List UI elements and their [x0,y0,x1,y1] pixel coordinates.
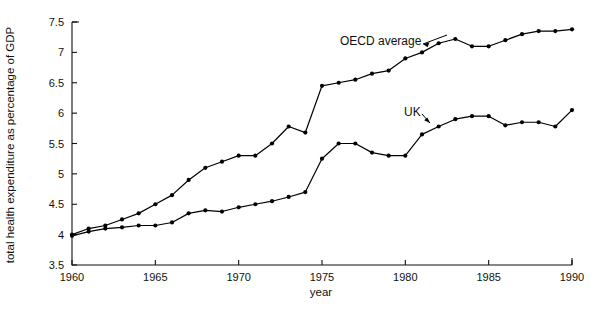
data-point [403,154,407,158]
data-point [387,154,391,158]
data-point [570,108,574,112]
y-tick-label: 5.5 [49,138,64,150]
data-point [120,225,124,229]
x-axis-title: year [310,286,333,298]
data-point [87,229,91,233]
data-point [253,154,257,158]
series-layer [70,27,574,238]
x-tick-label: 1970 [226,271,250,283]
data-point [137,223,141,227]
x-tick-label: 1965 [143,271,167,283]
data-point [553,29,557,33]
data-point [370,151,374,155]
x-tick-label: 1975 [310,271,334,283]
data-point [520,120,524,124]
axis-frame [72,22,572,265]
data-point [137,211,141,215]
data-point [370,72,374,76]
data-point [353,141,357,145]
data-point [303,130,307,134]
data-point [237,154,241,158]
data-point [220,160,224,164]
data-point [303,190,307,194]
series-annotation: UK [404,105,421,119]
data-point [120,217,124,221]
series-line-uk [72,110,572,236]
x-tick-label: 1980 [393,271,417,283]
data-point [387,69,391,73]
x-tick-label: 1990 [560,271,584,283]
data-point [203,166,207,170]
data-point [253,202,257,206]
data-point [187,211,191,215]
y-axis-title: total health expenditure as percentage o… [4,26,16,263]
uk-leader-arrowhead [424,117,430,123]
data-point [553,124,557,128]
data-point [437,41,441,45]
data-point [503,123,507,127]
x-tick-label: 1985 [476,271,500,283]
data-point [203,208,207,212]
y-tick-label: 7 [58,46,64,58]
x-tick-label: 1960 [60,271,84,283]
chart-figure: 3.544.555.566.577.5196019651970197519801… [0,0,596,310]
data-point [270,199,274,203]
data-point [420,50,424,54]
series-annotation: OECD average [340,34,422,48]
line-chart: 3.544.555.566.577.5196019651970197519801… [0,0,596,310]
y-tick-label: 7.5 [49,16,64,28]
data-point [337,141,341,145]
data-point [520,32,524,36]
data-point [187,178,191,182]
data-point [570,27,574,31]
y-tick-label: 4.5 [49,198,64,210]
data-point [470,114,474,118]
data-point [420,132,424,136]
data-point [220,209,224,213]
data-point [170,220,174,224]
data-point [103,226,107,230]
y-tick-label: 4 [58,229,64,241]
data-point [287,195,291,199]
data-point [153,202,157,206]
data-point [70,234,74,238]
data-point [437,124,441,128]
data-point [470,44,474,48]
y-tick-label: 6 [58,107,64,119]
data-point [320,84,324,88]
series-line-oecd-average [72,29,572,234]
y-tick-label: 5 [58,168,64,180]
data-point [537,29,541,33]
axes: 3.544.555.566.577.5196019651970197519801… [49,16,585,283]
data-point [453,117,457,121]
y-tick-label: 6.5 [49,77,64,89]
data-point [153,223,157,227]
y-tick-label: 3.5 [49,259,64,271]
data-point [287,124,291,128]
data-point [503,38,507,42]
data-point [487,114,491,118]
data-point [337,81,341,85]
data-point [270,141,274,145]
data-point [170,193,174,197]
data-point [320,157,324,161]
data-point [453,37,457,41]
data-point [487,44,491,48]
data-point [537,120,541,124]
data-point [237,205,241,209]
data-point [403,56,407,60]
data-point [353,78,357,82]
